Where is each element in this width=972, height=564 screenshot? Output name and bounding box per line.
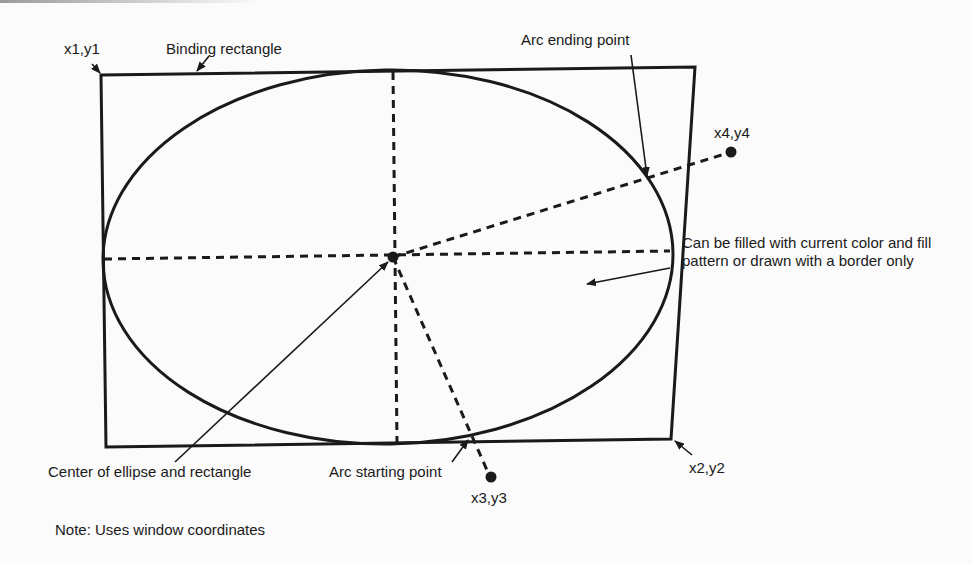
end-point-marker (726, 147, 737, 158)
start-point-marker (486, 472, 497, 483)
label-binding-rectangle: Binding rectangle (166, 40, 282, 58)
center-point (388, 252, 399, 263)
fill-note-arrow (587, 268, 670, 284)
label-x2y2: x2,y2 (689, 459, 725, 477)
horizontal-axis (104, 251, 670, 259)
label-note: Note: Uses window coordinates (55, 521, 265, 539)
label-fill-note: Can be filled with current color and fil… (682, 234, 967, 270)
line-to-end-point (393, 152, 731, 257)
label-arc-starting-point: Arc starting point (329, 463, 442, 481)
x1y1-arrow (92, 64, 100, 73)
binding-rectangle-arrow (197, 56, 209, 71)
x2y2-arrow (675, 441, 692, 455)
label-arc-ending-point: Arc ending point (521, 31, 629, 49)
label-center: Center of ellipse and rectangle (48, 463, 251, 481)
label-x3y3: x3,y3 (471, 489, 507, 507)
label-x4y4: x4,y4 (714, 124, 750, 142)
label-x1y1: x1,y1 (64, 40, 100, 58)
